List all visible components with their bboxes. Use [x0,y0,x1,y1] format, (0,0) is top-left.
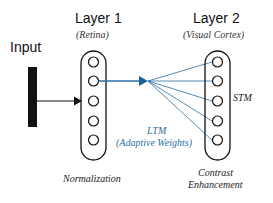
feedforward-arrowhead-icon [139,76,148,86]
layer1-subtitle: (Retina) [76,29,109,40]
layer1-node [89,135,99,145]
input-label: Input [10,39,41,55]
art1-network-diagram: Input Layer 1 (Retina) Layer 2 (Visual C… [0,0,273,203]
layer2-subtitle: (Visual Cortex) [183,29,244,40]
layer2-title: Layer 2 [193,10,240,26]
layer1-node [89,116,99,126]
adaptive-weights-label: (Adaptive Weights) [116,136,192,150]
layer2-node [213,96,223,106]
weight-line [148,81,212,121]
stm-label: STM [233,91,252,105]
layer2-node [213,76,223,86]
layer2-node [213,57,223,67]
input-bar [28,67,37,127]
layer1-title: Layer 1 [75,10,122,26]
weight-line [148,81,212,101]
layer1-node [89,96,99,106]
layer1-node [89,57,99,67]
layer1-caption: Normalization [63,172,121,186]
layer2-node [213,135,223,145]
layer2-node [213,116,223,126]
layer2-nodes [213,57,223,145]
weight-line [148,62,212,81]
layer1-node [89,76,99,86]
layer1-nodes [89,57,99,145]
layer2-caption-line2: Enhancement [188,178,242,192]
